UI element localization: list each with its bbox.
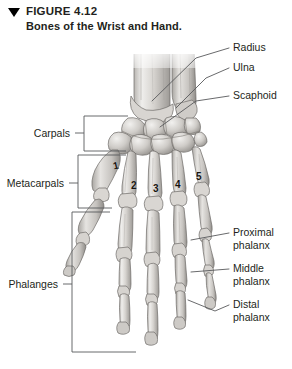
- label-scaphoid: Scaphoid: [233, 89, 277, 102]
- label-metacarpals: Metacarpals: [0, 177, 64, 190]
- metacarpal-number-1: 1: [112, 161, 120, 172]
- label-phalanges: Phalanges: [0, 278, 58, 291]
- label-distal-phalanx-line1: Distal: [233, 298, 259, 310]
- label-proximal-phalanx: Proximal phalanx: [233, 226, 274, 252]
- metacarpal-number-5: 5: [196, 172, 202, 182]
- label-distal-phalanx: Distal phalanx: [233, 298, 270, 324]
- label-ulna: Ulna: [233, 61, 255, 74]
- label-carpals: Carpals: [0, 127, 70, 140]
- label-proximal-phalanx-line1: Proximal: [233, 226, 274, 238]
- figure-container: FIGURE 4.12 Bones of the Wrist and Hand.: [0, 0, 292, 369]
- label-middle-phalanx: Middle phalanx: [233, 262, 270, 288]
- metacarpal-number-3: 3: [153, 184, 159, 194]
- label-proximal-phalanx-line2: phalanx: [233, 239, 274, 252]
- label-radius: Radius: [233, 41, 266, 54]
- metacarpal-number-4: 4: [175, 180, 181, 190]
- label-middle-phalanx-line2: phalanx: [233, 275, 270, 288]
- label-distal-phalanx-line2: phalanx: [233, 311, 270, 324]
- label-middle-phalanx-line1: Middle: [233, 262, 264, 274]
- metacarpal-number-2: 2: [131, 181, 137, 191]
